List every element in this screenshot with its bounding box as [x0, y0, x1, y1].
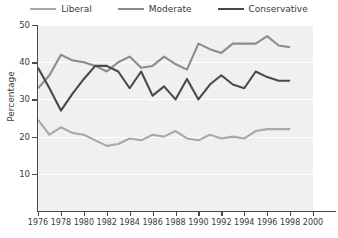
- x-tick-1982: [107, 211, 108, 216]
- x-tick-label-1988: 1988: [165, 219, 185, 227]
- series-line-liberal: [38, 120, 290, 146]
- legend-label-moderate: Moderate: [149, 5, 192, 14]
- y-tick-10: [32, 174, 37, 175]
- legend-swatch-liberal: [30, 8, 56, 11]
- x-tick-1998: [290, 211, 291, 216]
- x-tick-label-1976: 1976: [28, 219, 48, 227]
- y-tick-20: [32, 137, 37, 138]
- x-tick-label-1982: 1982: [97, 219, 117, 227]
- x-tick-2000: [313, 211, 314, 216]
- x-tick-1976: [38, 211, 39, 216]
- x-tick-1986: [153, 211, 154, 216]
- series-container: [38, 25, 313, 211]
- x-tick-1988: [176, 211, 177, 216]
- x-tick-1992: [221, 211, 222, 216]
- y-tick-label-10: 10: [10, 170, 30, 179]
- y-axis-line: [37, 25, 38, 211]
- legend-label-liberal: Liberal: [61, 5, 91, 14]
- x-tick-label-2000: 2000: [303, 219, 323, 227]
- y-axis-title: Percentage: [7, 62, 16, 132]
- x-tick-label-1994: 1994: [234, 219, 254, 227]
- x-tick-1996: [267, 211, 268, 216]
- x-tick-1978: [61, 211, 62, 216]
- x-tick-label-1986: 1986: [142, 219, 162, 227]
- x-tick-label-1998: 1998: [280, 219, 300, 227]
- legend-label-conservative: Conservative: [249, 5, 308, 14]
- legend-item-moderate[interactable]: Moderate: [118, 5, 192, 14]
- legend-swatch-moderate: [118, 8, 144, 11]
- series-line-conservative: [38, 66, 290, 111]
- series-line-moderate: [38, 36, 290, 88]
- x-tick-label-1996: 1996: [257, 219, 277, 227]
- y-tick-label-50: 50: [10, 21, 30, 30]
- y-tick-30: [32, 99, 37, 100]
- legend-item-liberal[interactable]: Liberal: [30, 5, 91, 14]
- chart-legend: Liberal Moderate Conservative: [0, 0, 338, 18]
- x-tick-label-1992: 1992: [211, 219, 231, 227]
- line-chart: Liberal Moderate Conservative 1020304050…: [0, 0, 338, 238]
- y-tick-40: [32, 62, 37, 63]
- x-tick-label-1980: 1980: [74, 219, 94, 227]
- y-tick-50: [32, 25, 37, 26]
- y-tick-label-20: 20: [10, 133, 30, 142]
- x-tick-1994: [244, 211, 245, 216]
- plot-area: [38, 25, 313, 211]
- x-tick-1984: [130, 211, 131, 216]
- legend-swatch-conservative: [218, 8, 244, 11]
- x-tick-1980: [84, 211, 85, 216]
- x-tick-label-1984: 1984: [119, 219, 139, 227]
- x-tick-label-1990: 1990: [188, 219, 208, 227]
- x-tick-1990: [198, 211, 199, 216]
- legend-item-conservative[interactable]: Conservative: [218, 5, 308, 14]
- x-tick-label-1978: 1978: [51, 219, 71, 227]
